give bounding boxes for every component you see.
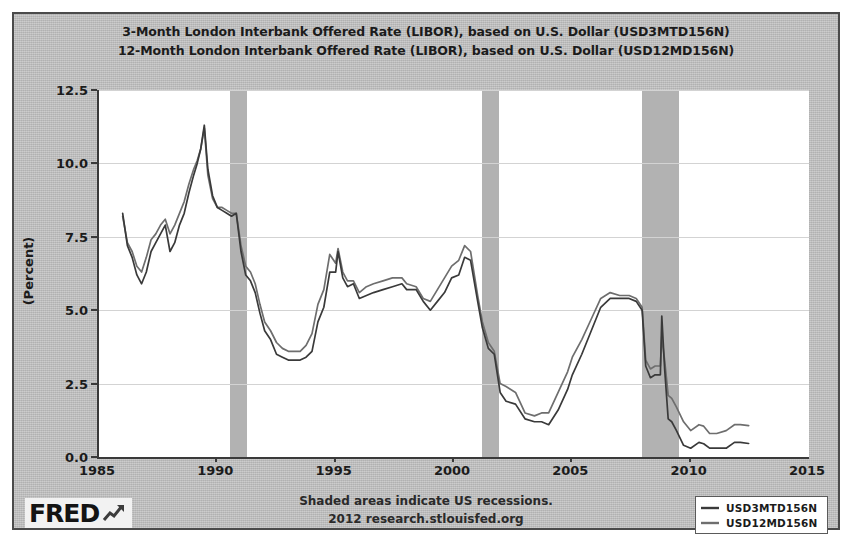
x-tick-label: 2015 bbox=[762, 463, 852, 478]
legend-item[interactable]: USD12MD156N bbox=[700, 515, 823, 530]
fred-wordmark: FRED bbox=[29, 501, 99, 526]
x-tick-label: 1995 bbox=[289, 463, 379, 478]
y-tick-mark bbox=[91, 236, 97, 238]
chart-arrow-icon bbox=[102, 503, 128, 523]
y-tick-label: 2.5 bbox=[24, 376, 88, 391]
y-tick-label: 10.0 bbox=[24, 156, 88, 171]
series-lines bbox=[99, 90, 809, 457]
x-tick-mark bbox=[452, 457, 454, 462]
legend-label-usd3mtd156n: USD3MTD156N bbox=[726, 502, 817, 514]
chart-title-line-2: 12-Month London Interbank Offered Rate (… bbox=[14, 41, 838, 60]
x-tick-mark bbox=[334, 457, 336, 462]
chart-title-line-1: 3-Month London Interbank Offered Rate (L… bbox=[14, 22, 838, 41]
x-tick-label: 1985 bbox=[52, 463, 142, 478]
y-tick-label: 5.0 bbox=[24, 303, 88, 318]
legend-swatch-usd3mtd156n bbox=[700, 503, 720, 513]
legend-item[interactable]: USD3MTD156N bbox=[700, 500, 823, 515]
plot-inner bbox=[99, 90, 809, 457]
chart-panel: 3-Month London Interbank Offered Rate (L… bbox=[12, 12, 840, 530]
y-tick-mark bbox=[91, 383, 97, 385]
x-tick-label: 2010 bbox=[644, 463, 734, 478]
y-tick-mark bbox=[91, 89, 97, 91]
fred-logo: FRED bbox=[25, 498, 132, 528]
y-tick-label: 12.5 bbox=[24, 83, 88, 98]
y-axis-label: (Percent) bbox=[21, 237, 36, 306]
legend-label-usd12md156n: USD12MD156N bbox=[726, 517, 818, 529]
series-line-usd12md156n bbox=[123, 128, 749, 433]
y-tick-mark bbox=[91, 456, 97, 458]
series-line-usd3mtd156n bbox=[123, 125, 749, 448]
y-tick-mark bbox=[91, 162, 97, 164]
x-tick-mark bbox=[570, 457, 572, 462]
x-tick-label: 1990 bbox=[170, 463, 260, 478]
chart-title-block: 3-Month London Interbank Offered Rate (L… bbox=[14, 22, 838, 60]
y-tick-mark bbox=[91, 309, 97, 311]
fred-chart-screenshot: 3-Month London Interbank Offered Rate (L… bbox=[0, 0, 854, 544]
x-tick-mark bbox=[215, 457, 217, 462]
chart-legend: USD3MTD156N USD12MD156N bbox=[695, 496, 828, 534]
x-tick-label: 2000 bbox=[407, 463, 497, 478]
legend-swatch-usd12md156n bbox=[700, 518, 720, 528]
plot-area bbox=[97, 90, 809, 459]
y-tick-label: 7.5 bbox=[24, 229, 88, 244]
x-tick-label: 2005 bbox=[525, 463, 615, 478]
x-tick-mark bbox=[689, 457, 691, 462]
